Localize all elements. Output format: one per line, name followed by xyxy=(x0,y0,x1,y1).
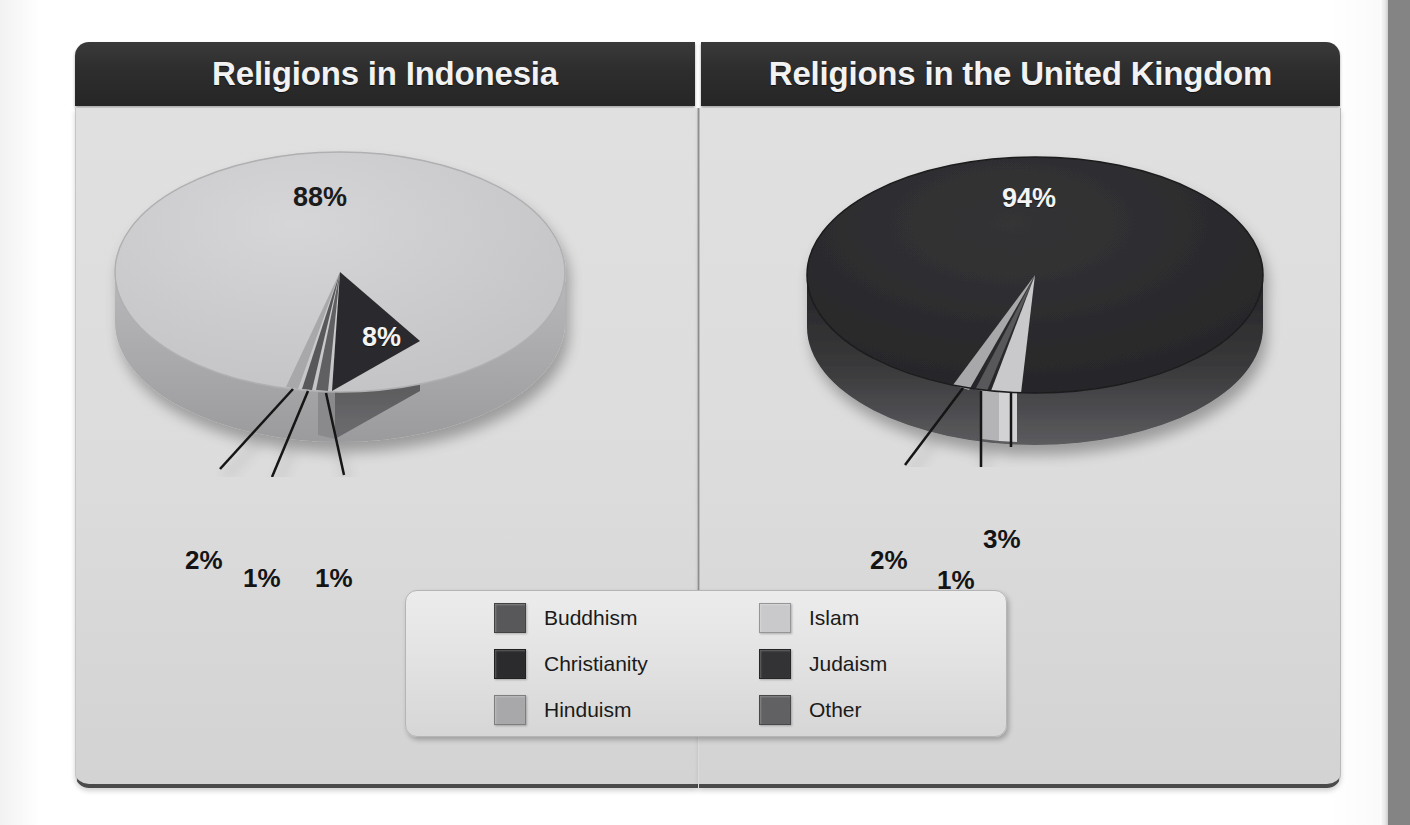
legend-label-christianity: Christianity xyxy=(544,652,648,676)
panel-header-indonesia: Religions in Indonesia xyxy=(75,42,695,106)
panel-header-uk: Religions in the United Kingdom xyxy=(701,42,1340,106)
legend-label-hinduism: Hinduism xyxy=(544,698,632,722)
legend-swatch-buddhism-icon xyxy=(494,603,526,633)
legend-label-judaism: Judaism xyxy=(809,652,887,676)
panel-title-indonesia: Religions in Indonesia xyxy=(212,55,558,93)
leader-label-indonesia-hinduism: 2% xyxy=(185,545,223,576)
figure-container: Religions in Indonesia Religions in the … xyxy=(75,42,1340,784)
legend-swatch-other-icon xyxy=(759,695,791,725)
legend-item-christianity: Christianity xyxy=(494,649,759,679)
pie-value-indonesia-islam: 88% xyxy=(293,182,347,213)
legend-swatch-islam-icon xyxy=(759,603,791,633)
legend-item-judaism: Judaism xyxy=(759,649,887,679)
panel-divider xyxy=(697,108,700,668)
chart-legend: Buddhism Christianity Hinduism Islam xyxy=(405,590,1007,737)
legend-label-other: Other xyxy=(809,698,862,722)
pie-svg-uk xyxy=(785,127,1285,467)
leader-label-uk-islam: 2% xyxy=(870,545,908,576)
legend-column-left: Buddhism Christianity Hinduism xyxy=(494,603,759,725)
legend-item-hinduism: Hinduism xyxy=(494,695,759,725)
panel-title-uk: Religions in the United Kingdom xyxy=(769,55,1272,93)
legend-item-other: Other xyxy=(759,695,887,725)
pie-chart-uk: 94% xyxy=(785,127,1285,467)
legend-swatch-hinduism-icon xyxy=(494,695,526,725)
leader-label-uk-other: 3% xyxy=(983,524,1021,555)
leader-label-indonesia-other: 1% xyxy=(315,563,353,594)
legend-column-right: Islam Judaism Other xyxy=(759,603,887,725)
legend-label-buddhism: Buddhism xyxy=(544,606,637,630)
legend-label-islam: Islam xyxy=(809,606,859,630)
pie-chart-indonesia: 88% 8% xyxy=(90,117,590,477)
pie-value-uk-christianity: 94% xyxy=(1002,183,1056,214)
page-edge-dark-strip xyxy=(1388,0,1410,825)
leader-label-indonesia-buddhism: 1% xyxy=(243,563,281,594)
pie-svg-indonesia xyxy=(90,117,590,477)
legend-swatch-christianity-icon xyxy=(494,649,526,679)
legend-item-islam: Islam xyxy=(759,603,887,633)
pie-value-indonesia-christianity: 8% xyxy=(362,322,401,353)
legend-swatch-judaism-icon xyxy=(759,649,791,679)
legend-item-buddhism: Buddhism xyxy=(494,603,759,633)
